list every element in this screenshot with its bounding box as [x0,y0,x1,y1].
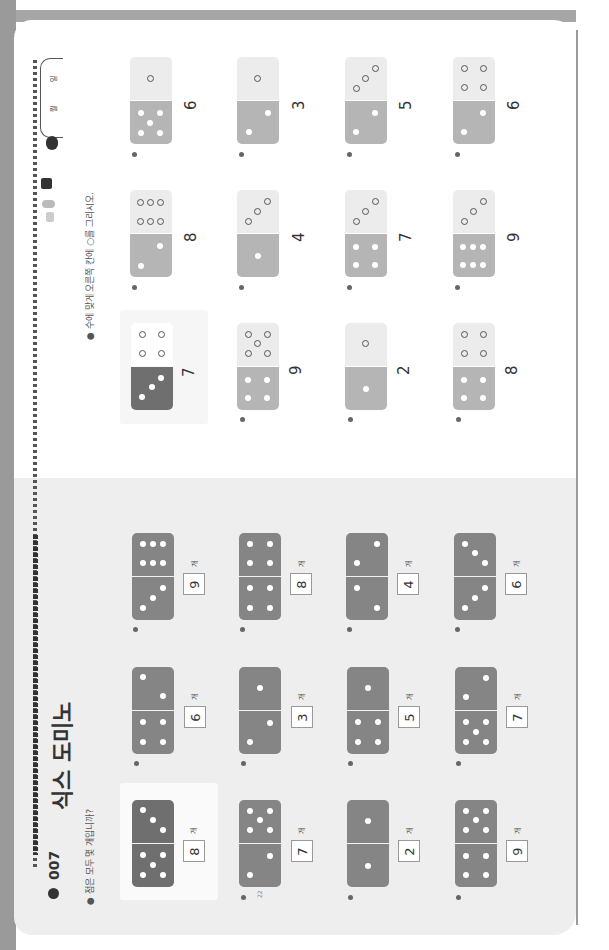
item-index-6 [348,895,353,900]
answer-box[interactable]: 7 [291,840,313,862]
domino-left-9 [455,800,497,887]
answer-box[interactable]: 8 [183,840,205,862]
answer-box[interactable]: 9 [183,573,205,595]
target-number: 5 [397,100,415,110]
item-index-11 [455,627,460,632]
unit-label: 개 [296,828,306,834]
answer-box[interactable]: 7 [506,706,528,728]
domino-left-6 [347,800,389,887]
item-index-8 [347,627,352,632]
item-index-2 [133,627,138,632]
item-index-10 [456,761,461,766]
domino-right-11 [453,57,495,144]
item-index-9 [456,895,461,900]
unit-label: 개 [512,828,522,834]
answer-box[interactable]: 8 [290,573,312,595]
item-index-7 [455,285,460,290]
left-page-number: 22 [256,890,263,898]
item-index-1 [134,761,139,766]
page-title: 식스 도미노 [44,702,76,810]
domino-left-11 [454,533,496,620]
domino-right-10 [345,57,387,144]
target-number: 8 [503,365,521,375]
train-car-icon-light-2 [46,212,54,222]
train-car-icon [41,178,52,189]
dashed-track-bold-decoration [33,535,38,855]
target-number: 7 [397,232,415,242]
date-day-label: 일 [48,76,58,82]
bullet-icon: ● [85,894,95,905]
domino-left-10 [455,667,497,754]
target-number: 8 [182,232,200,242]
item-index-6 [347,285,352,290]
train-car-icon-light [42,200,55,208]
domino-left-8 [346,533,388,620]
target-number: 6 [505,100,523,110]
domino-right-8 [130,57,172,144]
target-number: 9 [505,232,523,242]
item-index-9 [239,152,244,157]
unit-label: 개 [296,694,306,700]
item-index-8 [132,152,137,157]
domino-example-right [131,323,173,410]
domino-left-4 [239,667,281,754]
item-index-5 [240,627,245,632]
domino-right-2 [345,323,387,410]
answer-box[interactable]: 9 [506,840,528,862]
lesson-badge-icon [48,888,59,899]
domino-example-left [132,800,174,887]
domino-right-3 [453,323,495,410]
answer-box[interactable]: 3 [291,706,313,728]
domino-right-9 [237,57,279,144]
left-page-area-ext [289,478,576,935]
domino-left-3 [239,800,281,887]
train-engine-icon [46,136,58,150]
item-index-10 [347,152,352,157]
target-number: 4 [290,232,308,242]
target-number: 3 [290,100,308,110]
target-number: 2 [395,365,413,375]
bullet-icon: ● [85,329,95,340]
item-index-5 [239,285,244,290]
domino-right-5 [237,190,279,277]
target-number: 9 [287,365,305,375]
unit-label: 개 [189,561,199,567]
domino-left-5 [239,533,281,620]
domino-right-6 [345,190,387,277]
answer-box[interactable]: 4 [397,573,419,595]
item-index-4 [241,761,246,766]
domino-right-4 [130,190,172,277]
lesson-number: 007 [46,851,62,880]
unit-label: 개 [511,561,521,567]
left-instruction: ● 점은 모두 몇 개입니까? [83,809,96,905]
item-index-3 [241,895,246,900]
item-index-1 [240,417,245,422]
date-month-label: 월 [48,106,58,112]
item-index-7 [348,761,353,766]
domino-left-7 [347,667,389,754]
page-edge [576,30,578,925]
item-index-3 [456,417,461,422]
unit-label: 개 [296,561,306,567]
unit-label: 개 [512,694,522,700]
item-index-4 [132,285,137,290]
answer-box[interactable]: 2 [398,840,420,862]
answer-box[interactable]: 6 [184,706,206,728]
domino-right-1 [237,323,279,410]
answer-box[interactable]: 6 [505,573,527,595]
domino-left-2 [132,533,174,620]
unit-label: 개 [188,828,198,834]
unit-label: 개 [403,561,413,567]
item-index-11 [455,152,460,157]
target-number: 6 [182,100,200,110]
right-page-area-ext [289,20,576,478]
unit-label: 개 [404,694,414,700]
answer-box[interactable]: 5 [398,706,420,728]
unit-label: 개 [189,694,199,700]
target-number: 7 [180,367,198,377]
domino-left-1 [132,667,174,754]
unit-label: 개 [404,828,414,834]
right-instruction: ● 수에 맞게 오른쪽 칸에 ○를 그리시오. [83,192,96,340]
date-box [40,58,63,138]
item-index-2 [348,417,353,422]
